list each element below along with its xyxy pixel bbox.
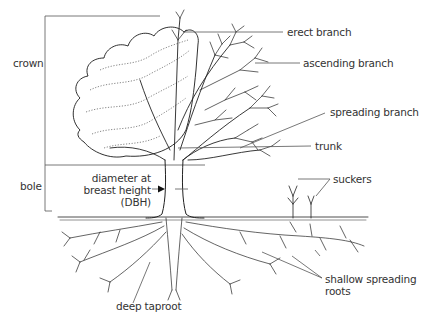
shallow-roots-label-line1: shallow spreading	[325, 273, 416, 285]
dbh-label-line1: diameter at	[76, 172, 151, 184]
erect-branch-label: erect branch	[287, 26, 351, 38]
suckers-drawing	[288, 186, 314, 218]
shallow-roots-label: shallow spreading roots	[325, 273, 416, 297]
dbh-label: diameter at breast height (DBH)	[76, 172, 151, 208]
root-system	[62, 218, 364, 300]
dbh-label-line2: breast height	[76, 184, 151, 196]
trunk-label: trunk	[315, 140, 342, 152]
bole-bracket	[45, 165, 52, 211]
ascending-branch-label: ascending branch	[303, 57, 393, 69]
dbh-arrow	[152, 186, 165, 193]
crown-label: crown	[13, 57, 44, 69]
shallow-roots-label-line2: roots	[325, 285, 416, 297]
suckers-label: suckers	[333, 173, 371, 185]
spreading-branch-label: spreading branch	[330, 106, 419, 118]
foliage-crown	[73, 27, 198, 157]
deep-taproot-label: deep taproot	[116, 300, 181, 312]
dbh-label-line3: (DBH)	[76, 196, 151, 208]
ground-line	[58, 217, 368, 220]
bole-label: bole	[20, 180, 42, 192]
